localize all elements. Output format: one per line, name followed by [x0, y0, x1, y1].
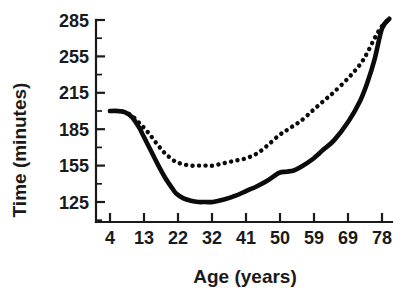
y-axis-tick-labels: 285255215185155125	[59, 11, 89, 213]
x-tick-label: 69	[338, 228, 358, 248]
x-tick-label: 59	[304, 228, 324, 248]
x-tick-label: 4	[105, 228, 115, 248]
y-tick-label: 155	[59, 156, 89, 176]
series-solid-line	[110, 19, 389, 202]
y-tick-label: 255	[59, 47, 89, 67]
series-dotted-line	[110, 19, 389, 166]
x-tick-label: 78	[372, 228, 392, 248]
y-tick-label: 125	[59, 193, 89, 213]
data-series-group	[110, 19, 389, 202]
x-axis-title: Age (years)	[193, 266, 297, 287]
x-axis-tick-labels: 41322324150596978	[105, 228, 392, 248]
y-tick-label: 185	[59, 120, 89, 140]
y-tick-label: 215	[59, 83, 89, 103]
x-tick-label: 32	[202, 228, 222, 248]
y-tick-label: 285	[59, 11, 89, 31]
chart-container: 285255215185155125 41322324150596978 Tim…	[0, 0, 402, 288]
x-tick-label: 41	[236, 228, 256, 248]
line-chart: 285255215185155125 41322324150596978 Tim…	[0, 0, 402, 288]
x-tick-label: 22	[168, 228, 188, 248]
y-axis-ticks	[96, 20, 105, 220]
x-tick-label: 13	[134, 228, 154, 248]
x-tick-label: 50	[270, 228, 290, 248]
y-axis-title: Time (minutes)	[9, 83, 30, 218]
x-axis-ticks	[110, 213, 382, 222]
